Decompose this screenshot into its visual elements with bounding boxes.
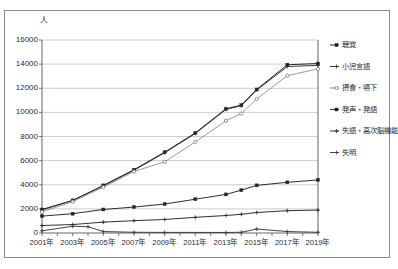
y-tick-label: 0	[2, 229, 38, 237]
x-tick-label: 2003年	[56, 239, 90, 247]
data-point-marker	[224, 119, 227, 122]
legend-item-label[interactable]: 聴覚	[342, 41, 356, 49]
legend-swatch-5	[330, 151, 339, 155]
x-tick-label: 2001年	[25, 239, 59, 247]
data-point-marker	[102, 208, 105, 211]
data-point-marker	[335, 44, 338, 47]
data-point-marker	[41, 215, 44, 218]
data-point-marker	[40, 210, 43, 213]
series-line	[42, 69, 318, 212]
data-point-marker	[286, 181, 289, 184]
data-point-marker	[194, 198, 197, 201]
data-point-marker	[317, 178, 320, 181]
data-point-marker	[316, 67, 319, 70]
x-tick-label: 2019年	[301, 239, 335, 247]
series-line	[42, 65, 318, 210]
series-2	[40, 67, 319, 213]
data-point-marker	[286, 74, 289, 77]
data-point-marker	[335, 86, 338, 89]
data-point-marker	[255, 184, 258, 187]
x-tick-label: 2009年	[148, 239, 182, 247]
legend-item-label[interactable]: 小児言語	[342, 63, 370, 71]
y-tick-label: 12000	[2, 84, 38, 92]
y-tick-label: 14000	[2, 60, 38, 68]
x-tick-label: 2017年	[270, 239, 304, 247]
data-point-marker	[102, 186, 105, 189]
data-point-marker	[163, 160, 166, 163]
data-point-marker	[163, 203, 166, 206]
data-point-marker	[240, 189, 243, 192]
y-tick-label: 2000	[2, 205, 38, 213]
x-tick-label: 2005年	[86, 239, 120, 247]
data-point-marker	[132, 170, 135, 173]
y-tick-label: 10000	[2, 108, 38, 116]
legend-swatch-2	[330, 86, 339, 89]
data-point-marker	[71, 212, 74, 215]
legend-item-label[interactable]: 発声・発語	[342, 106, 377, 114]
legend-swatch-1	[330, 65, 339, 69]
x-tick-label: 2007年	[117, 239, 151, 247]
y-tick-label: 8000	[2, 133, 38, 141]
y-axis-unit-label: 人	[40, 16, 48, 25]
data-point-marker	[255, 98, 258, 101]
y-tick-label: 4000	[2, 181, 38, 189]
x-tick-label: 2015年	[240, 239, 274, 247]
data-point-marker	[335, 108, 338, 111]
data-point-marker	[133, 206, 136, 209]
legend-item-label[interactable]: 失語・高次脳機能	[342, 127, 398, 135]
y-tick-label: 6000	[2, 157, 38, 165]
series-4	[40, 208, 320, 227]
series-3	[41, 178, 320, 217]
data-point-marker	[225, 193, 228, 196]
legend-item-label[interactable]: 摂食・嚥下	[342, 84, 377, 92]
data-point-marker	[194, 140, 197, 143]
data-point-marker	[240, 112, 243, 115]
legend-swatch-3	[330, 108, 339, 111]
x-tick-label: 2011年	[178, 239, 212, 247]
series-line	[42, 226, 318, 232]
legend-swatch-0	[330, 44, 339, 47]
y-tick-label: 16000	[2, 36, 38, 44]
x-tick-label: 2013年	[209, 239, 243, 247]
series-1	[40, 63, 320, 212]
legend-swatch-4	[330, 129, 339, 133]
data-point-marker	[71, 200, 74, 203]
legend-item-label[interactable]: 失明	[342, 149, 356, 157]
series-line	[42, 180, 318, 216]
